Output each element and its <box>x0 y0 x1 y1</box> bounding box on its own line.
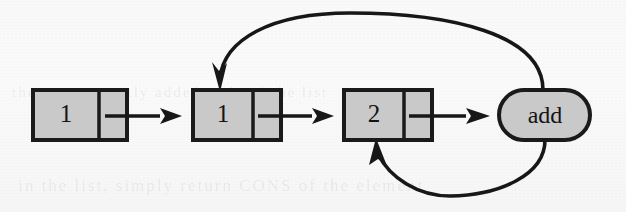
curve-path-bottom <box>378 140 545 196</box>
arrowhead-down-into-node2 <box>212 62 227 92</box>
linked-list-diagram: 1 1 2 add <box>0 0 626 212</box>
add-node-label: add <box>528 102 563 128</box>
arrowhead-node2-to-node3 <box>312 108 334 124</box>
node-3-value: 2 <box>368 100 381 127</box>
arrowhead-up-into-node3 <box>369 138 387 166</box>
list-node-2[interactable]: 1 <box>193 90 334 140</box>
list-node-3[interactable]: 2 <box>344 90 490 140</box>
arrowhead-node1-to-node2 <box>160 108 182 124</box>
edge-add-to-node2-curve <box>212 13 543 92</box>
edge-add-to-node3-curve <box>369 138 545 196</box>
figure-canvas: the most recently added node of the list… <box>0 0 626 212</box>
node-1-value: 1 <box>60 100 73 127</box>
node-2-value: 1 <box>217 100 230 127</box>
curve-path-top <box>220 13 543 90</box>
add-node[interactable]: add <box>499 90 590 140</box>
arrowhead-node3-to-add <box>466 108 490 124</box>
list-node-1[interactable]: 1 <box>33 90 182 140</box>
